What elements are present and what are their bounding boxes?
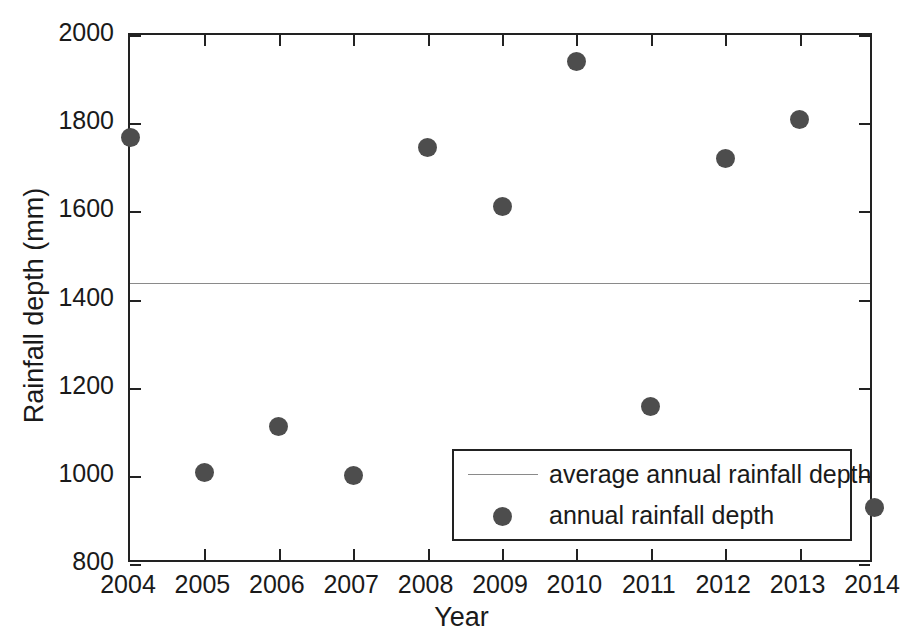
- x-tick-mark-top: [502, 35, 504, 46]
- legend-label-average: average annual rainfall depth: [549, 460, 871, 489]
- x-tick-mark-top: [428, 35, 430, 46]
- y-tick-mark-right: [859, 564, 870, 566]
- y-tick-mark-right: [859, 123, 870, 125]
- data-point-2013: [790, 110, 809, 129]
- x-tick-mark: [428, 549, 430, 560]
- x-tick-mark-top: [651, 35, 653, 46]
- data-point-2011: [641, 397, 660, 416]
- average-rainfall-line: [130, 283, 870, 284]
- data-point-2010: [567, 52, 586, 71]
- data-point-2012: [716, 149, 735, 168]
- y-tick-label: 1000: [0, 461, 114, 486]
- y-tick-mark: [130, 388, 141, 390]
- y-tick-mark: [130, 35, 141, 37]
- y-tick-label: 1600: [0, 196, 114, 221]
- x-tick-mark: [502, 549, 504, 560]
- data-point-2014: [865, 498, 884, 517]
- x-tick-mark: [800, 549, 802, 560]
- y-tick-mark: [130, 476, 141, 478]
- data-point-2009: [493, 197, 512, 216]
- y-tick-mark: [130, 300, 141, 302]
- x-tick-mark: [651, 549, 653, 560]
- y-tick-mark: [130, 211, 141, 213]
- x-tick-mark-top: [279, 35, 281, 46]
- y-tick-mark-right: [859, 300, 870, 302]
- data-point-2006: [269, 417, 288, 436]
- data-point-2005: [195, 463, 214, 482]
- chart-legend: average annual rainfall depth annual rai…: [452, 449, 852, 541]
- x-tick-mark-top: [725, 35, 727, 46]
- x-tick-mark: [353, 549, 355, 560]
- data-point-2007: [344, 466, 363, 485]
- y-tick-label: 800: [0, 549, 114, 574]
- y-tick-mark-right: [859, 388, 870, 390]
- rainfall-depth-scatter-chart: Rainfall depth (mm) Year average annual …: [0, 0, 923, 637]
- y-tick-mark: [130, 123, 141, 125]
- x-axis-title: Year: [0, 602, 923, 633]
- x-tick-mark-top: [576, 35, 578, 46]
- data-point-2008: [418, 138, 437, 157]
- x-tick-label: 2014: [822, 572, 922, 597]
- x-tick-mark: [204, 549, 206, 560]
- x-tick-mark-top: [800, 35, 802, 46]
- y-tick-mark-right: [859, 211, 870, 213]
- x-tick-mark-top: [204, 35, 206, 46]
- x-tick-mark: [279, 549, 281, 560]
- legend-key-dot-icon: [464, 495, 542, 537]
- y-tick-label: 1400: [0, 285, 114, 310]
- legend-label-annual: annual rainfall depth: [549, 501, 774, 530]
- legend-entry-average: average annual rainfall depth: [454, 454, 850, 496]
- y-tick-label: 1200: [0, 373, 114, 398]
- y-tick-label: 1800: [0, 108, 114, 133]
- y-tick-mark: [130, 564, 141, 566]
- x-tick-mark: [576, 549, 578, 560]
- x-tick-mark-top: [353, 35, 355, 46]
- x-tick-mark: [725, 549, 727, 560]
- y-tick-mark-right: [859, 35, 870, 37]
- data-point-2004: [121, 128, 140, 147]
- legend-entry-annual: annual rainfall depth: [454, 495, 850, 537]
- y-tick-label: 2000: [0, 20, 114, 45]
- legend-key-line-icon: [464, 454, 542, 496]
